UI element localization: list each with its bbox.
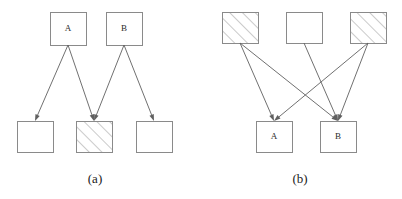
edge-line [340, 43, 368, 115]
node-box-a-bot-right [137, 122, 173, 153]
edge-line [279, 43, 368, 117]
edge-line [240, 43, 333, 117]
edge-panel-b-3 [274, 43, 368, 121]
edge-line [96, 45, 124, 115]
edge-panel-b-0 [240, 43, 274, 121]
box-hatch-fill [223, 13, 258, 43]
box-outline [137, 122, 173, 153]
arrow-head-icon [149, 114, 154, 121]
box-label-a-top-B: B [121, 23, 127, 33]
panel-caption-0: (a) [88, 171, 102, 186]
edges-layer [35, 43, 368, 121]
box-label-b-bot-A: A [271, 131, 278, 141]
arrow-head-icon [338, 114, 342, 121]
arrow-head-icon [90, 114, 94, 121]
edge-line [124, 45, 152, 115]
node-box-b-top-left [223, 13, 259, 44]
figure-root: ABAB (a)(b) [0, 0, 402, 199]
node-box-b-top-right [351, 13, 387, 44]
box-outline [18, 122, 54, 153]
arrow-head-icon [94, 114, 99, 121]
arrow-head-icon [269, 114, 274, 121]
node-box-b-top-mid [287, 13, 323, 44]
edge-panel-b-4 [338, 43, 368, 121]
arrow-head-icon [35, 114, 40, 121]
captions-layer: (a)(b) [88, 171, 308, 186]
edge-panel-b-1 [240, 43, 338, 121]
panel-caption-1: (b) [292, 171, 307, 186]
box-hatch-fill [77, 122, 112, 152]
edge-line [38, 45, 68, 115]
edge-line [304, 43, 335, 115]
box-label-b-bot-B: B [335, 131, 341, 141]
box-outline [287, 13, 323, 44]
edge-line [240, 43, 271, 115]
diagram-canvas: ABAB (a)(b) [0, 0, 402, 199]
node-box-a-bot-mid [77, 122, 113, 153]
nodes-layer [18, 13, 387, 153]
edge-panel-a-1 [68, 45, 94, 121]
edge-panel-a-2 [94, 45, 124, 121]
edge-panel-a-0 [35, 45, 68, 121]
node-box-a-bot-left [18, 122, 54, 153]
box-hatch-fill [351, 13, 386, 43]
edge-panel-a-3 [124, 45, 154, 121]
box-label-a-top-A: A [65, 23, 72, 33]
edge-line [68, 45, 92, 115]
